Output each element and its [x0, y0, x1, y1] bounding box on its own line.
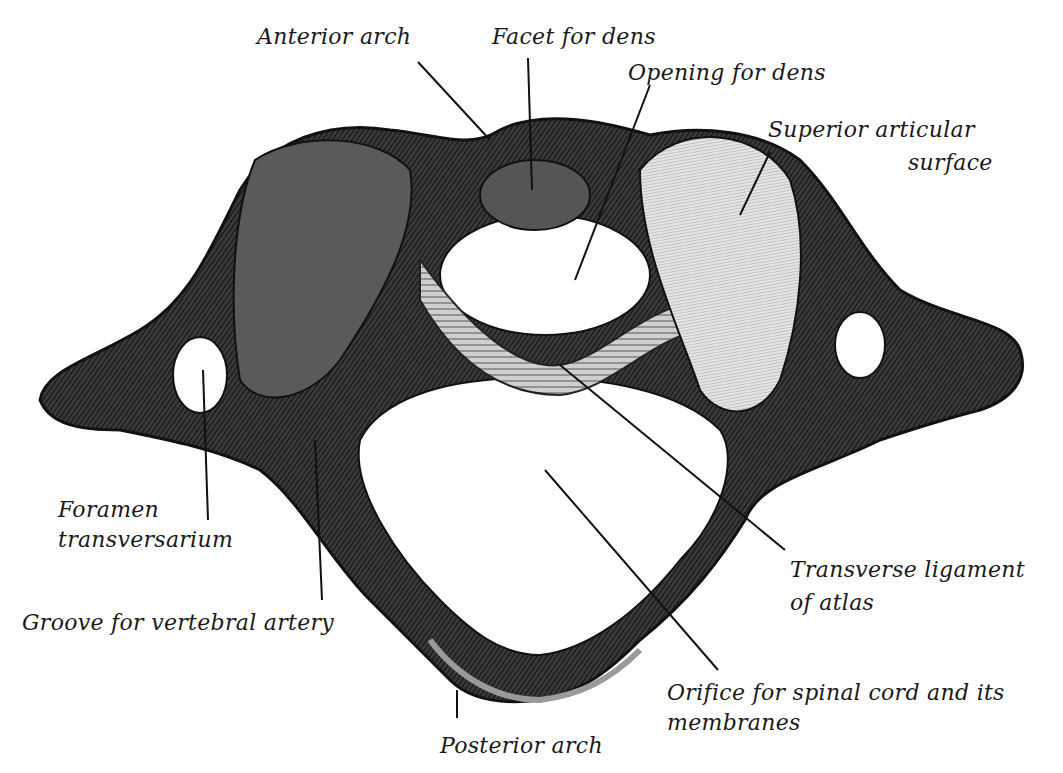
label-opening-for-dens: Opening for dens — [628, 60, 826, 86]
label-superior-articular-surface-line1: Superior articular — [768, 117, 975, 143]
atlas-diagram: Anterior arch Facet for dens Opening for… — [0, 0, 1063, 773]
opening-for-dens — [440, 215, 650, 335]
label-groove-for-vertebral-artery: Groove for vertebral artery — [22, 610, 334, 636]
label-anterior-arch: Anterior arch — [257, 24, 411, 50]
label-orifice-line2: membranes — [667, 710, 801, 736]
label-foramen-transversarium-line1: Foramen — [58, 497, 159, 523]
label-transverse-ligament-line1: Transverse ligament — [790, 557, 1025, 583]
atlas-vertebra-illustration — [0, 0, 1063, 773]
label-posterior-arch: Posterior arch — [440, 733, 603, 759]
left-foramen-transversarium — [173, 337, 227, 413]
label-superior-articular-surface-line2: surface — [908, 150, 993, 176]
label-orifice-line1: Orifice for spinal cord and its — [667, 680, 1005, 706]
right-foramen-transversarium — [835, 312, 885, 378]
label-transverse-ligament-line2: of atlas — [790, 590, 874, 616]
label-facet-for-dens: Facet for dens — [492, 24, 656, 50]
facet-for-dens — [480, 160, 590, 230]
label-foramen-transversarium-line2: transversarium — [58, 527, 233, 553]
